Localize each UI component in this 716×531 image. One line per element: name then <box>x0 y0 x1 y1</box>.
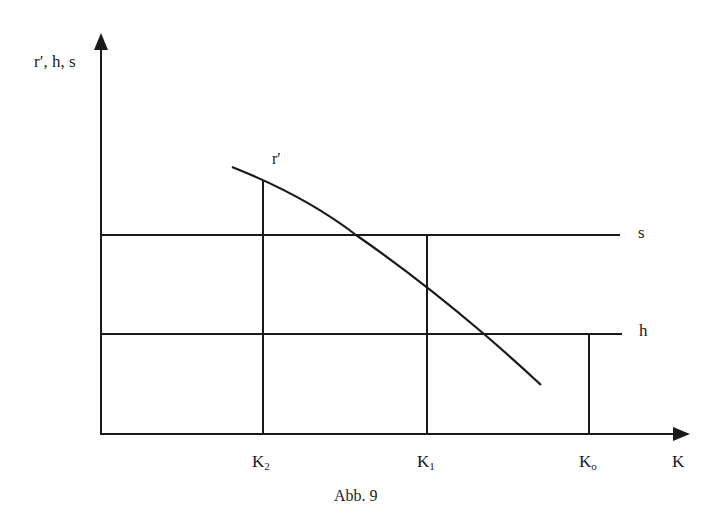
diagram <box>0 0 716 531</box>
tick-k0-base: K <box>579 452 591 471</box>
y-axis-arrow-icon <box>94 33 108 50</box>
tick-k1-base: K <box>417 452 429 471</box>
tick-k0: Ko <box>579 453 597 472</box>
tick-k1-sub: 1 <box>429 460 435 472</box>
h-label: h <box>639 322 648 339</box>
r-prime-curve <box>232 167 541 385</box>
tick-k0-sub: o <box>591 460 597 472</box>
tick-k2-sub: 2 <box>264 460 270 472</box>
tick-k2-base: K <box>252 452 264 471</box>
figure-caption: Abb. 9 <box>334 488 378 504</box>
x-axis-arrow-icon <box>673 427 690 441</box>
s-label: s <box>638 224 645 241</box>
y-axis-label: r′, h, s <box>34 53 76 70</box>
tick-k2: K2 <box>252 453 270 472</box>
tick-k1: K1 <box>417 453 435 472</box>
x-axis-label: K <box>672 453 684 470</box>
curve-label: r′ <box>272 151 281 167</box>
